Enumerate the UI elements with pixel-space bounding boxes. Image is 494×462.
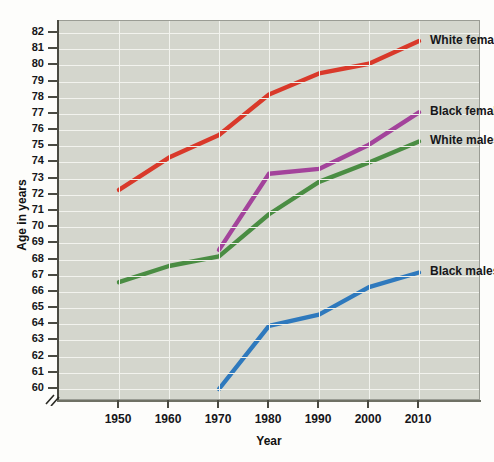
- life-expectancy-line-chart: 8281807978777675747372717069686766656463…: [0, 0, 494, 462]
- gridline-vertical: [219, 21, 220, 399]
- y-axis-tick-label: 78: [18, 91, 44, 102]
- y-axis-tick-label: 76: [18, 123, 44, 134]
- x-axis-tick: [317, 400, 319, 408]
- gridline-vertical: [269, 21, 270, 399]
- y-axis-tick: [48, 80, 57, 82]
- y-axis-tick-label: 82: [18, 26, 44, 37]
- y-axis-tick: [48, 306, 57, 308]
- y-axis-tick-label: 66: [18, 285, 44, 296]
- y-axis-tick-label: 60: [18, 382, 44, 393]
- y-axis-tick-label: 81: [18, 42, 44, 53]
- x-axis-tick-label: 2010: [395, 412, 441, 426]
- y-axis-tick: [48, 160, 57, 162]
- y-axis-tick-label: 64: [18, 317, 44, 328]
- y-axis-tick-label: 77: [18, 107, 44, 118]
- y-axis-tick: [48, 63, 57, 65]
- y-axis-tick-label: 67: [18, 269, 44, 280]
- y-axis-tick: [48, 290, 57, 292]
- y-axis-tick-label: 63: [18, 333, 44, 344]
- y-axis-tick: [48, 274, 57, 276]
- y-axis-tick: [48, 177, 57, 179]
- x-axis-tick: [367, 400, 369, 408]
- y-axis-tick: [48, 144, 57, 146]
- series-label-black-females: Black females: [430, 104, 494, 118]
- y-axis-tick: [48, 258, 57, 260]
- x-axis-tick-label: 1950: [95, 412, 141, 426]
- y-axis-tick: [48, 355, 57, 357]
- x-axis-tick-label: 2000: [345, 412, 391, 426]
- y-axis-tick-label: 65: [18, 301, 44, 312]
- y-axis-tick-label: 61: [18, 366, 44, 377]
- gridline-vertical: [419, 21, 420, 399]
- y-axis-tick: [48, 128, 57, 130]
- x-axis-tick-label: 1980: [245, 412, 291, 426]
- x-axis-tick-label: 1990: [295, 412, 341, 426]
- y-axis-tick: [48, 112, 57, 114]
- y-axis-tick-label: 75: [18, 139, 44, 150]
- y-axis-tick-label: 79: [18, 75, 44, 86]
- x-axis-tick: [217, 400, 219, 408]
- x-axis-tick: [117, 400, 119, 408]
- y-axis-tick: [48, 31, 57, 33]
- x-axis-tick-label: 1970: [195, 412, 241, 426]
- series-label-white-males: White males: [430, 133, 494, 147]
- x-axis-tick: [267, 400, 269, 408]
- x-axis-tick: [167, 400, 169, 408]
- x-axis-tick-label: 1960: [145, 412, 191, 426]
- plot-area: [58, 20, 480, 400]
- y-axis-tick: [48, 96, 57, 98]
- gridline-vertical: [319, 21, 320, 399]
- y-axis-tick: [48, 225, 57, 227]
- y-axis-line: [57, 20, 59, 401]
- y-axis-tick: [48, 338, 57, 340]
- x-axis-tick: [417, 400, 419, 408]
- y-axis-tick: [48, 47, 57, 49]
- gridline-vertical: [369, 21, 370, 399]
- y-axis-tick: [48, 193, 57, 195]
- y-axis-break-marker: [44, 386, 66, 406]
- y-axis-title: Age in years: [15, 160, 29, 270]
- series-label-white-females: White females: [430, 33, 494, 47]
- y-axis-tick: [48, 209, 57, 211]
- series-label-black-males: Black males: [430, 264, 494, 278]
- x-axis-title: Year: [58, 434, 480, 448]
- y-axis-tick: [48, 371, 57, 373]
- y-axis-tick-label: 80: [18, 58, 44, 69]
- y-axis-tick-label: 62: [18, 350, 44, 361]
- gridline-vertical: [169, 21, 170, 399]
- gridline-vertical: [119, 21, 120, 399]
- y-axis-tick: [48, 241, 57, 243]
- y-axis-tick: [48, 322, 57, 324]
